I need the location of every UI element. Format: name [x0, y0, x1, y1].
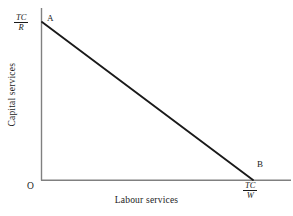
- point-a-label: A: [47, 14, 54, 23]
- isocost-diagram: TC R A B TC W O Labour services Capital …: [0, 0, 293, 216]
- isocost-line: [42, 22, 253, 180]
- y-axis-title: Capital services: [8, 30, 18, 160]
- point-b-label: B: [257, 160, 263, 169]
- origin-label: O: [27, 182, 34, 192]
- x-axis-title: Labour services: [0, 196, 293, 206]
